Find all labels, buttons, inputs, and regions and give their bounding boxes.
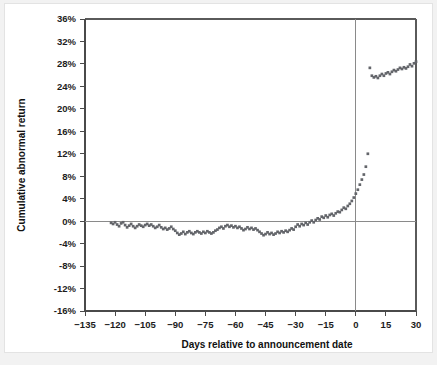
y-tick-label: 32%: [57, 36, 77, 47]
x-tick-label: −105: [134, 319, 156, 330]
data-point: [118, 225, 121, 228]
y-tick-label: 16%: [57, 126, 77, 137]
x-tick-label: −30: [288, 319, 304, 330]
data-point: [350, 200, 353, 203]
data-point: [354, 192, 357, 195]
data-point: [318, 218, 321, 221]
data-point: [369, 67, 372, 70]
x-tick-label: 0: [353, 319, 358, 330]
x-tick-label: −120: [104, 319, 125, 330]
data-point: [122, 221, 125, 224]
y-tick-label: 28%: [57, 58, 77, 69]
y-tick-label: 8%: [62, 171, 76, 182]
y-tick-label: 24%: [57, 81, 77, 92]
cumulative-abnormal-return-chart: 36%32%28%24%20%16%12%8%4%0%-4%-8%-12%-16…: [5, 4, 434, 354]
data-point: [292, 228, 295, 231]
figure-root: 36%32%28%24%20%16%12%8%4%0%-4%-8%-12%-16…: [0, 0, 437, 365]
data-point: [367, 152, 370, 155]
data-point: [411, 65, 414, 68]
y-tick-label: -8%: [59, 260, 76, 271]
x-tick-label: −75: [197, 319, 214, 330]
x-tick-label: 15: [381, 319, 392, 330]
y-axis-tick-labels: 36%32%28%24%20%16%12%8%4%0%-4%-8%-12%-16…: [54, 13, 77, 316]
y-tick-label: 36%: [57, 13, 77, 24]
y-tick-label: 12%: [57, 148, 77, 159]
x-tick-label: 30: [411, 319, 422, 330]
x-tick-label: −15: [318, 319, 335, 330]
data-point: [356, 188, 359, 191]
figure-card: 36%32%28%24%20%16%12%8%4%0%-4%-8%-12%-16…: [4, 3, 433, 353]
x-axis-tick-labels: −135−120−105−90−75−60−45−30−1501530: [74, 319, 421, 330]
y-axis-title: Cumulative abnormal return: [16, 98, 27, 231]
x-axis-title: Days relative to announcement date: [181, 339, 353, 350]
data-point: [415, 60, 418, 63]
x-tick-label: −60: [227, 319, 243, 330]
y-tick-label: 0%: [62, 216, 76, 227]
data-point: [360, 178, 363, 181]
x-tick-marks: [85, 311, 416, 316]
y-tick-label: -4%: [59, 238, 76, 249]
y-tick-label: 4%: [62, 193, 76, 204]
x-tick-label: −135: [74, 319, 96, 330]
y-tick-label: -12%: [54, 283, 77, 294]
y-tick-marks: [80, 19, 85, 311]
y-tick-label: -16%: [54, 305, 77, 316]
x-tick-label: −90: [167, 319, 183, 330]
data-point: [362, 173, 365, 176]
plot-background: [85, 19, 416, 311]
x-tick-label: −45: [257, 319, 274, 330]
y-tick-label: 20%: [57, 103, 77, 114]
data-point: [352, 196, 355, 199]
data-point: [348, 202, 351, 205]
data-point: [358, 183, 361, 186]
data-point: [365, 165, 368, 168]
data-point: [344, 207, 347, 210]
